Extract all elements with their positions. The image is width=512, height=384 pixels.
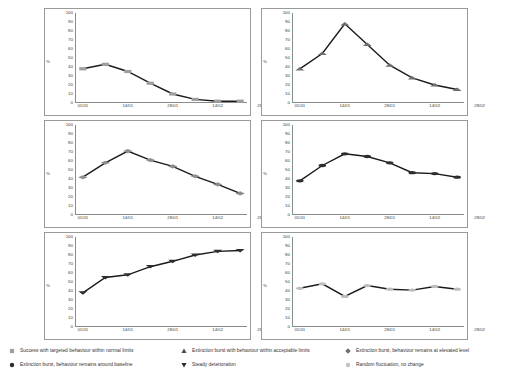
y-tick-label: 40 — [285, 65, 290, 69]
y-tick-label: 20 — [68, 83, 73, 87]
figure-legend: Success with targeted behaviour within n… — [8, 344, 508, 378]
legend-label: Success with targeted behaviour within n… — [20, 348, 133, 353]
y-tick-label: 80 — [68, 141, 73, 145]
y-tick-label: 50 — [68, 56, 73, 60]
x-tick-labels: 01/0114/0128/0114/0228/02 — [76, 328, 247, 338]
data-point-marker — [453, 88, 462, 91]
plot-area: 01/0114/0128/0114/0228/02 — [292, 125, 464, 215]
plot-area: 01/0114/0128/0114/0228/02 — [75, 237, 247, 327]
y-tick-labels: 1009080706050403020100 — [270, 237, 290, 327]
series-markers-steady-deterioration — [76, 237, 247, 327]
x-tick-label: 14/01 — [122, 104, 133, 108]
legend-label: Extinction burst with behaviour within a… — [192, 348, 310, 353]
y-tick-label: 90 — [68, 20, 73, 24]
data-point-marker — [341, 295, 349, 298]
x-tick-label: 14/02 — [429, 216, 440, 220]
y-axis-gutter: %1009080706050403020100 — [45, 9, 75, 115]
data-point-marker — [431, 172, 439, 175]
y-tick-label: 30 — [285, 74, 290, 78]
x-tick-label: 28/02 — [474, 328, 485, 332]
x-tick-label: 28/02 — [474, 216, 485, 220]
data-point-marker — [363, 284, 371, 287]
y-axis-unit-label: % — [263, 60, 267, 64]
y-tick-label: 50 — [285, 280, 290, 284]
chart-panel-extinction-burst-around-baseline: %100908070605040302010001/0114/0128/0114… — [261, 120, 468, 228]
x-tick-label: 14/01 — [122, 216, 133, 220]
y-tick-label: 90 — [285, 244, 290, 248]
y-tick-label: 60 — [68, 47, 73, 51]
legend-item-4: Steady deterioration — [180, 361, 344, 369]
y-tick-label: 50 — [68, 280, 73, 284]
y-tick-label: 70 — [285, 38, 290, 42]
y-tick-label: 10 — [285, 316, 290, 320]
plot-area: 01/0114/0128/0114/0228/02 — [75, 13, 247, 103]
plot-area: 01/0114/0128/0114/0228/02 — [292, 13, 464, 103]
y-tick-label: 40 — [68, 177, 73, 181]
y-axis-unit-label: % — [263, 284, 267, 288]
data-point-marker — [408, 288, 416, 291]
circle-light-marker-icon — [344, 361, 352, 369]
x-tick-label: 14/01 — [339, 216, 350, 220]
y-tick-label: 50 — [285, 168, 290, 172]
y-tick-label: 60 — [285, 271, 290, 275]
chart-panel-extinction-burst-acceptable-limits: %100908070605040302010001/0114/0128/0114… — [261, 8, 468, 116]
y-tick-label: 70 — [68, 150, 73, 154]
x-tick-label: 01/01 — [294, 328, 305, 332]
series-markers-random-fluctuation-no-change — [293, 237, 464, 327]
legend-item-1: Extinction burst with behaviour within a… — [180, 347, 344, 355]
x-tick-label: 28/01 — [384, 328, 395, 332]
legend-item-0: Success with targeted behaviour within n… — [8, 347, 180, 355]
y-tick-labels: 1009080706050403020100 — [53, 13, 73, 103]
triangle-down-marker-icon — [180, 361, 188, 369]
data-point-marker — [363, 155, 371, 158]
y-tick-label: 40 — [68, 289, 73, 293]
x-tick-label: 14/02 — [429, 104, 440, 108]
data-point-marker — [102, 63, 109, 66]
series-markers-extinction-burst-elevated-level — [76, 125, 247, 215]
x-tick-label: 28/01 — [167, 328, 178, 332]
data-point-marker — [146, 265, 155, 268]
figure-root: %100908070605040302010001/0114/0128/0114… — [0, 0, 512, 384]
y-axis-unit-label: % — [46, 60, 50, 64]
data-point-marker — [101, 276, 110, 279]
x-tick-label: 01/01 — [294, 104, 305, 108]
y-tick-label: 20 — [285, 307, 290, 311]
data-point-marker — [124, 70, 131, 73]
x-tick-label: 28/01 — [167, 104, 178, 108]
y-tick-label: 0 — [288, 213, 290, 217]
x-tick-label: 01/01 — [77, 104, 88, 108]
y-tick-label: 80 — [285, 141, 290, 145]
y-tick-label: 100 — [66, 123, 73, 127]
y-tick-label: 10 — [68, 204, 73, 208]
y-tick-label: 20 — [68, 307, 73, 311]
data-point-marker — [430, 83, 439, 86]
y-tick-label: 60 — [285, 47, 290, 51]
y-tick-label: 40 — [285, 289, 290, 293]
y-tick-label: 20 — [68, 195, 73, 199]
circle-marker-icon — [8, 361, 16, 369]
y-tick-label: 0 — [288, 325, 290, 329]
legend-label: Extinction burst, behaviour remains at e… — [356, 348, 469, 353]
x-tick-label: 28/01 — [384, 216, 395, 220]
x-tick-label: 14/01 — [339, 104, 350, 108]
data-point-marker — [296, 287, 304, 290]
chart-grid: %100908070605040302010001/0114/0128/0114… — [44, 8, 468, 340]
y-tick-label: 100 — [283, 235, 290, 239]
data-point-marker — [168, 260, 177, 263]
y-tick-label: 10 — [68, 92, 73, 96]
data-point-marker — [340, 22, 349, 25]
y-axis-gutter: %1009080706050403020100 — [45, 233, 75, 339]
y-axis-gutter: %1009080706050403020100 — [45, 121, 75, 227]
data-point-marker — [237, 100, 244, 103]
data-point-marker — [169, 92, 176, 95]
y-tick-label: 0 — [71, 325, 73, 329]
data-point-marker — [79, 67, 86, 70]
x-tick-labels: 01/0114/0128/0114/0228/02 — [76, 216, 247, 226]
chart-panel-extinction-burst-elevated-level: %100908070605040302010001/0114/0128/0114… — [44, 120, 251, 228]
x-tick-labels: 01/0114/0128/0114/0228/02 — [293, 328, 464, 338]
triangle-up-marker-icon — [180, 347, 188, 355]
x-tick-labels: 01/0114/0128/0114/0228/02 — [293, 104, 464, 114]
y-tick-labels: 1009080706050403020100 — [270, 13, 290, 103]
data-point-marker — [146, 158, 155, 162]
y-tick-label: 40 — [285, 177, 290, 181]
